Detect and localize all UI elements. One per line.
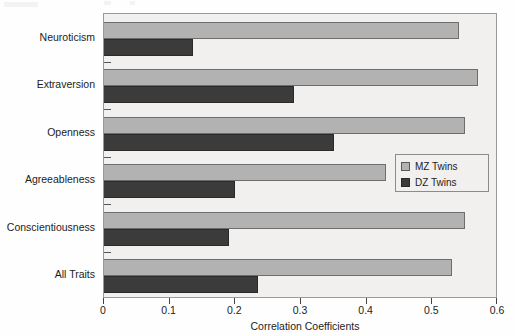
legend-item: DZ Twins — [401, 175, 483, 189]
bar-mz — [104, 69, 478, 86]
y-axis-labels: NeuroticismExtraversionOpennessAgreeable… — [0, 13, 99, 298]
bar-dz — [104, 181, 235, 198]
bar-dz — [104, 86, 294, 103]
x-axis-tick-label: 0 — [100, 304, 106, 316]
x-axis-title-text: Correlation Coefficients — [251, 320, 360, 332]
category-label: Agreeableness — [25, 173, 95, 185]
chart-figure: NeuroticismExtraversionOpennessAgreeable… — [0, 0, 514, 336]
bar-group — [104, 252, 496, 300]
bar-group — [104, 14, 496, 62]
legend-label: DZ Twins — [415, 177, 457, 188]
scan-artifact — [4, 2, 38, 7]
category-label: Neuroticism — [40, 31, 95, 43]
bar-dz — [104, 134, 334, 151]
x-axis-tick-labels: 00.10.20.30.40.50.6 — [0, 304, 514, 320]
legend-label: MZ Twins — [415, 161, 458, 172]
category-label: All Traits — [55, 268, 95, 280]
x-axis-tick-label: 0.6 — [490, 304, 505, 316]
bar-mz — [104, 212, 465, 229]
category-label: Conscientiousness — [7, 221, 95, 233]
bar-mz — [104, 117, 465, 134]
category-label: Extraversion — [37, 78, 95, 90]
bar-dz — [104, 229, 229, 246]
legend-item: MZ Twins — [401, 159, 483, 173]
scan-artifact — [130, 1, 135, 5]
bar-dz — [104, 276, 258, 293]
x-axis-title: Correlation Coefficients — [0, 320, 514, 332]
legend-swatch-mz — [401, 162, 410, 171]
x-axis-tick-label: 0.2 — [227, 304, 242, 316]
bar-mz — [104, 164, 386, 181]
bar-mz — [104, 22, 459, 39]
bar-dz — [104, 39, 193, 56]
category-label: Openness — [47, 126, 95, 138]
bar-group — [104, 62, 496, 110]
x-axis-tick-label: 0.1 — [161, 304, 176, 316]
bar-group — [104, 204, 496, 252]
x-axis-tick-label: 0.5 — [424, 304, 439, 316]
legend-swatch-dz — [401, 178, 410, 187]
x-axis-tick-label: 0.4 — [358, 304, 373, 316]
bar-mz — [104, 259, 452, 276]
chart-legend: MZ TwinsDZ Twins — [395, 154, 489, 192]
x-axis-tick-label: 0.3 — [293, 304, 308, 316]
scan-artifact — [104, 1, 111, 5]
bar-group — [104, 109, 496, 157]
